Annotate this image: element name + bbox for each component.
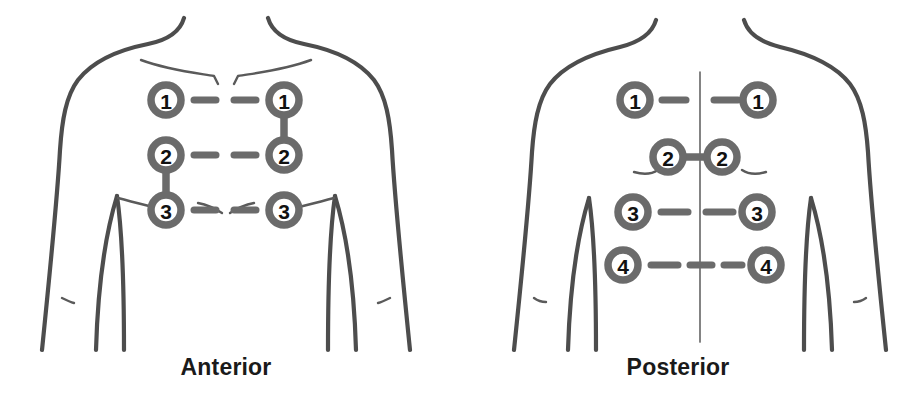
anterior-electrode-pads: 1 1 2 2 3 <box>151 85 299 225</box>
electrode-pad-label: 1 <box>160 90 172 113</box>
electrode-pad[interactable]: 3 <box>618 197 648 227</box>
electrode-pad[interactable]: 3 <box>151 195 181 225</box>
electrode-pad[interactable]: 4 <box>608 250 638 280</box>
electrode-pad[interactable]: 4 <box>751 250 781 280</box>
electrode-pad-label: 3 <box>627 202 639 225</box>
posterior-lead-wires <box>651 100 742 265</box>
posterior-view-caption: Posterior <box>452 352 904 382</box>
electrode-pad[interactable]: 2 <box>653 142 683 172</box>
electrode-pad-label: 1 <box>752 90 764 113</box>
posterior-figure-svg: 1 1 2 2 3 <box>452 0 904 411</box>
electrode-placement-diagram: 1 1 2 2 3 <box>0 0 904 411</box>
electrode-pad[interactable]: 1 <box>269 85 299 115</box>
electrode-pad[interactable]: 1 <box>151 85 181 115</box>
anterior-view-caption: Anterior <box>0 352 452 382</box>
electrode-pad-label: 2 <box>662 147 674 170</box>
posterior-view-panel: 1 1 2 2 3 <box>452 0 904 411</box>
electrode-pad-label: 4 <box>617 255 629 278</box>
electrode-pad[interactable]: 1 <box>743 85 773 115</box>
electrode-pad[interactable]: 3 <box>269 195 299 225</box>
electrode-pad-label: 1 <box>278 90 290 113</box>
anterior-torso-outline <box>42 18 410 350</box>
posterior-electrode-pads: 1 1 2 2 3 <box>608 85 781 280</box>
electrode-pad[interactable]: 1 <box>620 85 650 115</box>
electrode-pad-label: 4 <box>760 255 772 278</box>
electrode-pad-label: 2 <box>278 145 290 168</box>
electrode-pad[interactable]: 2 <box>151 140 181 170</box>
electrode-pad[interactable]: 3 <box>742 197 772 227</box>
electrode-pad[interactable]: 2 <box>707 142 737 172</box>
posterior-anatomy-details <box>534 72 866 342</box>
electrode-pad-label: 2 <box>716 147 728 170</box>
anterior-figure-svg: 1 1 2 2 3 <box>0 0 452 411</box>
electrode-pad-label: 3 <box>751 202 763 225</box>
electrode-pad-label: 1 <box>629 90 641 113</box>
anterior-anatomy-details <box>62 60 390 303</box>
electrode-pad[interactable]: 2 <box>269 140 299 170</box>
electrode-pad-label: 3 <box>160 200 172 223</box>
electrode-pad-label: 3 <box>278 200 290 223</box>
anterior-view-panel: 1 1 2 2 3 <box>0 0 452 411</box>
electrode-pad-label: 2 <box>160 145 172 168</box>
